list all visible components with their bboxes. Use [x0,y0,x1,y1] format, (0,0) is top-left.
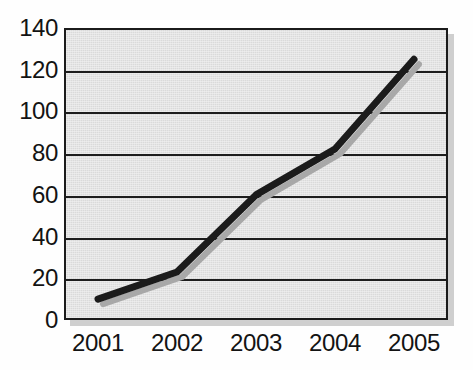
gridline [66,196,446,198]
y-axis-tick-label: 80 [2,141,58,165]
line-chart-figure: 140120100806040200 20012002200320042005 [0,0,473,370]
plot-texture-overlay [66,30,446,318]
y-axis-tick-label: 0 [2,308,58,332]
y-axis-tick-label: 40 [2,225,58,249]
y-axis-tick-label: 60 [2,183,58,207]
x-axis-tick-label: 2005 [366,331,462,355]
gridline [66,71,446,73]
y-axis-tick-label: 100 [2,99,58,123]
y-axis-tick-label: 140 [2,16,58,40]
gridline [66,112,446,114]
gridline [66,279,446,281]
gridline [66,238,446,240]
gridline [66,154,446,156]
y-axis-tick-label: 20 [2,266,58,290]
plot-area [64,28,448,320]
y-axis-tick-label: 120 [2,58,58,82]
